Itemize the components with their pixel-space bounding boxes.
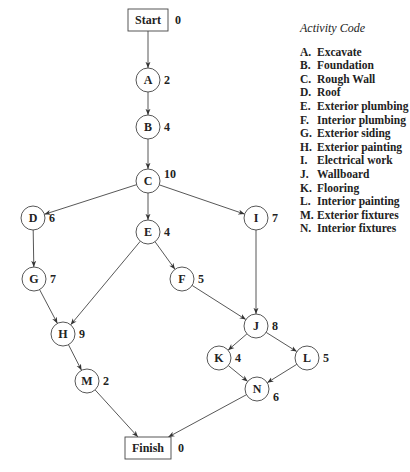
legend-item-code: N. [300,222,317,236]
node-m: M2 [75,369,109,393]
legend-item-code: B. [300,59,317,73]
node-label: J [253,319,259,333]
legend-item-name: Interior plumbing [317,114,406,126]
node-label: Start [135,13,161,27]
legend-item-name: Flooring [317,182,359,194]
node-b: B4 [136,115,170,139]
node-finish: Finish0 [125,437,184,459]
legend-item: F.Interior plumbing [300,114,410,128]
node-i: I7 [244,206,278,230]
node-l: L5 [295,346,329,370]
node-duration: 7 [50,272,56,286]
node-label: L [303,351,311,365]
legend-item-code: F. [300,114,317,128]
node-duration: 7 [272,211,278,225]
node-duration: 2 [164,73,170,87]
legend-item-code: E. [300,100,317,114]
legend-item-code: D. [300,86,317,100]
node-label: G [29,272,38,286]
node-duration: 8 [272,319,278,333]
legend-item-name: Roof [317,86,341,98]
legend-item-code: M. [300,209,317,223]
node-a: A2 [136,68,170,92]
edge-l-to-n [267,364,297,382]
legend-item-code: A. [300,46,317,60]
legend-item-name: Exterior painting [317,141,402,153]
legend-item-name: Excavate [317,46,362,58]
node-duration: 4 [164,120,170,134]
legend-item-name: Rough Wall [317,73,375,85]
edge-f-to-j [192,285,246,319]
node-label: Finish [132,441,164,455]
node-start: Start0 [128,9,181,31]
node-duration: 5 [323,351,329,365]
legend-item: H.Exterior painting [300,141,410,155]
node-d: D6 [21,206,55,230]
node-e: E4 [136,220,170,244]
edge-g-to-h [40,290,58,324]
legend-item: B.Foundation [300,59,410,73]
edge-e-to-h [71,241,141,325]
node-h: H9 [51,322,85,346]
legend-item: M.Exterior fixtures [300,209,410,223]
edge-k-to-n [228,366,247,382]
node-duration: 4 [164,225,170,239]
node-j: J8 [244,314,278,338]
legend-title: Activity Code [300,22,410,36]
node-k: K4 [207,346,241,370]
node-duration: 2 [103,374,109,388]
legend-item-name: Interior fixtures [317,222,396,234]
legend-item-name: Exterior plumbing [317,100,408,112]
legend-item-name: Exterior siding [317,127,391,139]
legend-item-name: Interior painting [317,195,400,207]
legend-item-name: Electrical work [317,154,393,166]
node-duration: 4 [235,351,241,365]
node-label: I [254,211,259,225]
edge-e-to-f [155,242,175,270]
edge-j-to-l [266,332,297,351]
node-label: B [144,120,152,134]
nodes: Start0A2B4C10D6E4I7G7F5H9J8M2K4L5N6Finis… [21,9,329,459]
legend-items: A.ExcavateB.FoundationC.Rough WallD.Roof… [300,46,410,236]
node-label: K [214,351,224,365]
legend-item-code: K. [300,182,317,196]
legend-item-name: Foundation [317,59,374,71]
edge-c-to-d [44,185,136,215]
legend-item-code: L. [300,195,317,209]
node-duration: 0 [175,13,181,27]
legend-item: C.Rough Wall [300,73,410,87]
node-label: C [144,174,153,188]
node-label: D [29,211,38,225]
edge-j-to-k [228,334,247,350]
edge-n-to-finish [168,395,246,437]
edge-h-to-m [68,345,81,371]
node-duration: 5 [198,272,204,286]
edge-c-to-i [159,185,244,214]
legend-item: J.Wallboard [300,168,410,182]
edge-d-to-g [33,230,34,267]
node-label: E [144,225,152,239]
legend-item-code: I. [300,154,317,168]
node-label: N [253,382,262,396]
legend-item-code: C. [300,73,317,87]
legend-item: D.Roof [300,86,410,100]
legend-item-name: Exterior fixtures [317,209,399,221]
node-duration: 10 [164,167,176,181]
node-label: F [178,272,185,286]
legend-item: L.Interior painting [300,195,410,209]
legend-item-code: G. [300,127,317,141]
legend-item: K.Flooring [300,182,410,196]
node-n: N6 [245,377,279,404]
edge-m-to-finish [95,390,138,437]
node-duration: 6 [49,211,55,225]
node-g: G7 [22,267,56,291]
node-label: H [58,327,68,341]
legend-item-name: Wallboard [317,168,369,180]
node-label: M [81,374,92,388]
legend-item: G.Exterior siding [300,127,410,141]
node-duration: 6 [273,390,279,404]
activity-code-legend: Activity Code A.ExcavateB.FoundationC.Ro… [300,22,410,236]
node-label: A [144,73,153,87]
legend-item-code: J. [300,168,317,182]
legend-item: I.Electrical work [300,154,410,168]
